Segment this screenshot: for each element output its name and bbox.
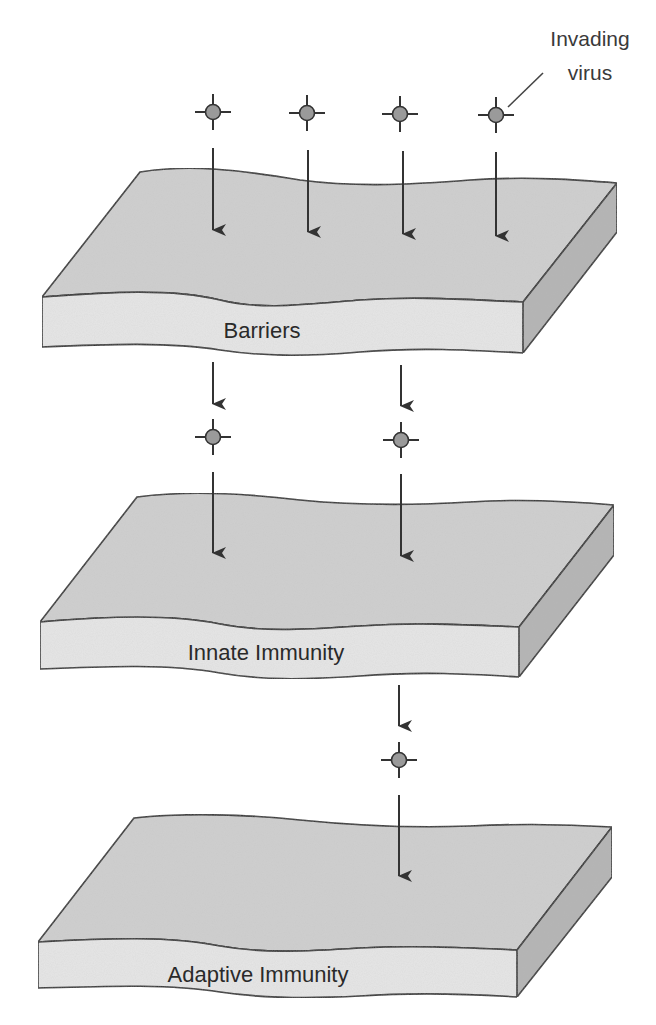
slab-adaptive-top [38, 815, 612, 951]
virus-icon [195, 94, 231, 130]
layer-label-innate-immunity: Innate Immunity [188, 640, 345, 666]
layer-label-adaptive-immunity: Adaptive Immunity [168, 962, 349, 988]
callout-line-1: Invading [530, 22, 650, 56]
callout-line-2: virus [530, 56, 650, 90]
virus-icon [381, 742, 417, 778]
virus-icon [289, 95, 325, 131]
slab-barriers-top [42, 168, 617, 305]
slab-innate-top [40, 493, 614, 629]
virus-icon [383, 422, 419, 458]
layer-label-barriers: Barriers [223, 318, 300, 344]
virus-icon [195, 419, 231, 455]
invading-virus-callout: Invading virus [530, 22, 650, 90]
virus-icon [382, 96, 418, 132]
slab-barriers [42, 168, 617, 355]
immune-defense-diagram: Invading virus Barriers Innate Immunity … [0, 0, 656, 1025]
virus-icon [478, 97, 514, 133]
